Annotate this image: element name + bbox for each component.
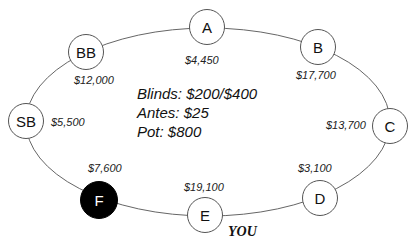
- seat-label: C: [385, 118, 396, 135]
- seat-label: BB: [76, 44, 96, 61]
- stack-seat-b: $17,700: [296, 69, 336, 81]
- stack-seat-sb: $5,500: [51, 116, 85, 128]
- stack-seat-a: $4,450: [185, 54, 219, 66]
- blinds-text: Blinds: $200/$400: [137, 84, 257, 103]
- seat-d: D: [302, 180, 338, 216]
- seat-f-highlighted: F: [80, 181, 118, 219]
- seat-label: A: [202, 19, 212, 36]
- stack-seat-c: $13,700: [326, 119, 366, 131]
- seat-e: E: [187, 197, 223, 233]
- seat-b: B: [300, 29, 336, 65]
- seat-label: F: [94, 192, 103, 209]
- stack-seat-f: $7,600: [88, 162, 122, 174]
- seat-label: SB: [16, 113, 36, 130]
- seat-sb: SB: [8, 103, 44, 139]
- stack-seat-bb: $12,000: [74, 74, 114, 86]
- seat-bb: BB: [68, 34, 104, 70]
- seat-label: E: [200, 207, 210, 224]
- seat-label: D: [315, 190, 326, 207]
- seat-c: C: [372, 108, 408, 144]
- pot-text: Pot: $800: [137, 122, 257, 141]
- hero-marker: YOU: [228, 224, 257, 240]
- stack-seat-e: $19,100: [184, 181, 224, 193]
- seat-a: A: [189, 9, 225, 45]
- stack-seat-d: $3,100: [298, 162, 332, 174]
- seat-label: B: [313, 39, 323, 56]
- antes-text: Antes: $25: [137, 103, 257, 122]
- hand-info: Blinds: $200/$400 Antes: $25 Pot: $800: [137, 84, 257, 141]
